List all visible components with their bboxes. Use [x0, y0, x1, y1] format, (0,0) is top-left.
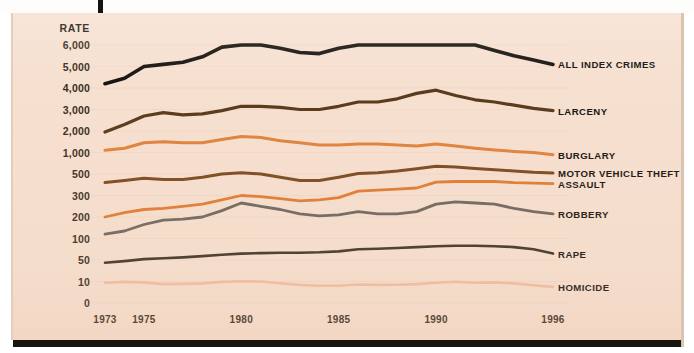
series-label: ASSAULT — [558, 178, 606, 189]
y-tick-label: 200 — [72, 211, 90, 223]
series-label: RAPE — [558, 248, 586, 259]
series-label: ROBBERY — [558, 208, 609, 219]
y-tick-label: 1,000 — [63, 147, 90, 159]
series-line — [105, 90, 553, 132]
panel-left-edge — [11, 13, 13, 340]
series-legend: ALL INDEX CRIMESLARCENYBURGLARYMOTOR VEH… — [558, 13, 681, 340]
y-axis: RATE 6,0005,0004,0003,0002,0001,00050030… — [27, 13, 90, 340]
series-line — [105, 281, 553, 287]
panel-right-edge — [681, 13, 684, 347]
y-tick-label: 100 — [72, 233, 90, 245]
y-tick-label: 50 — [78, 254, 90, 266]
page-top-margin — [0, 0, 694, 14]
y-axis-title: RATE — [59, 22, 90, 34]
series-label: ALL INDEX CRIMES — [558, 59, 656, 70]
x-tick-label: 1975 — [132, 314, 155, 325]
series-label: LARCENY — [558, 105, 608, 116]
gutter-tick-mark — [98, 0, 103, 13]
series-line — [105, 136, 553, 154]
series-line — [105, 182, 553, 218]
series-line — [105, 45, 553, 84]
x-tick-label: 1985 — [327, 314, 350, 325]
y-tick-label: 500 — [72, 168, 90, 180]
y-tick-label: 300 — [72, 190, 90, 202]
chart-page: RATE 6,0005,0004,0003,0002,0001,00050030… — [0, 0, 694, 353]
y-tick-label: 5,000 — [63, 61, 90, 73]
y-tick-label: 4,000 — [63, 82, 90, 94]
y-tick-label: 3,000 — [63, 104, 90, 116]
series-label: HOMICIDE — [558, 281, 610, 292]
y-tick-label: 2,000 — [63, 125, 90, 137]
y-tick-label: 0 — [84, 297, 90, 309]
y-tick-label: 10 — [78, 276, 90, 288]
series-label: BURGLARY — [558, 149, 616, 160]
y-tick-label: 6,000 — [63, 39, 90, 51]
x-tick-label: 1980 — [230, 314, 253, 325]
x-tick-label: 1973 — [93, 314, 116, 325]
series-label: MOTOR VEHICLE THEFT — [558, 168, 680, 179]
x-tick-label: 1990 — [424, 314, 447, 325]
bottom-rule — [13, 340, 681, 347]
chart-panel: RATE 6,0005,0004,0003,0002,0001,00050030… — [13, 13, 681, 340]
